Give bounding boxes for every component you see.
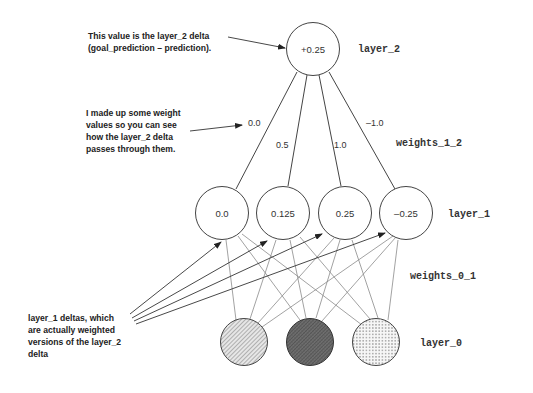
annotation-layer1-deltas-arrow-0 (130, 242, 221, 314)
weight-label-1: 0.5 (276, 140, 289, 150)
layer-2-label: layer_2 (358, 44, 400, 55)
network-diagram: +0.25 0.0 0.125 0.25 –0.25 0.0 0.5 1.0 –… (0, 0, 533, 393)
annotation-layer2-delta-line-0: This value is the layer_2 delta (88, 31, 210, 41)
layer-1-node-3-value: –0.25 (394, 208, 418, 219)
layer-0-node-0 (221, 319, 268, 366)
weight-label-2: 1.0 (334, 140, 347, 150)
layer-0-nodes (221, 319, 400, 366)
layer-1-node-2-value: 0.25 (336, 208, 355, 219)
annotation-layer1-deltas-arrow-2 (134, 234, 322, 321)
weights-1-2-label: weights_1_2 (396, 138, 462, 149)
annotation-layer1-deltas-arrow-1 (132, 241, 267, 318)
weight-label-0: 0.0 (248, 118, 261, 128)
layer-0-node-1 (287, 319, 334, 366)
annotation-layer1-deltas-line-2: versions of the layer_2 (28, 337, 121, 347)
annotation-weights-note-arrow (190, 125, 242, 131)
annotation-layer2-delta-arrow (228, 37, 285, 48)
layer-2-node: +0.25 (287, 23, 340, 76)
layer-1-node-0-value: 0.0 (215, 208, 228, 219)
annotation-layer1-deltas-line-0: layer_1 deltas, which (28, 313, 114, 323)
annotation-weights-note: I made up some weight values so you can … (86, 108, 242, 154)
annotation-layer1-deltas-line-3: delta (28, 349, 48, 359)
annotation-weights-note-line-1: values so you can see (86, 120, 177, 130)
layer-1-label: layer_1 (448, 209, 490, 220)
annotation-layer1-deltas-line-1: are actually weighted (28, 325, 115, 335)
layer-1-node-0: 0.0 (196, 187, 249, 240)
layer-2-node-value: +0.25 (301, 44, 325, 55)
layer-0-label: layer_0 (420, 338, 462, 349)
layer-1-nodes: 0.0 0.125 0.25 –0.25 (196, 187, 433, 240)
layer-1-node-1-value: 0.125 (271, 208, 295, 219)
layer-1-node-1: 0.125 (257, 187, 310, 240)
annotation-weights-note-line-0: I made up some weight (86, 108, 181, 118)
annotation-weights-note-line-3: passes through them. (86, 144, 175, 154)
annotation-layer2-delta-line-1: (goal_prediction – prediction). (88, 43, 211, 53)
layer-0-node-2 (353, 319, 400, 366)
weights-1-2-edges (236, 72, 395, 189)
annotation-layer2-delta: This value is the layer_2 delta (goal_pr… (88, 31, 285, 53)
weights-0-1-label: weights_0_1 (410, 271, 476, 282)
annotation-layer1-deltas-arrow-3 (136, 233, 385, 324)
weight-label-3: –1.0 (366, 118, 384, 128)
weight-labels: 0.0 0.5 1.0 –1.0 (248, 118, 384, 150)
weights-0-1-edges (226, 234, 398, 327)
annotation-weights-note-line-2: how the layer_2 delta (86, 132, 173, 142)
layer-1-node-2: 0.25 (319, 187, 372, 240)
layer-1-node-3: –0.25 (380, 187, 433, 240)
